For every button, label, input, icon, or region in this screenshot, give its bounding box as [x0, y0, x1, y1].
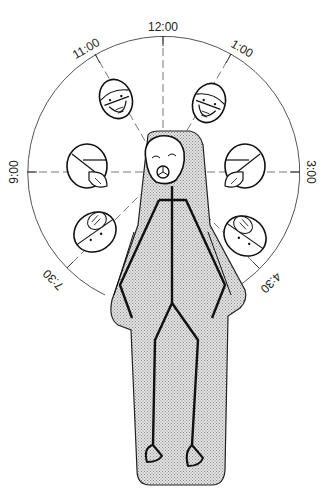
surgeon-head-7-30 [66, 204, 124, 260]
label-9-00: 9:00 [7, 160, 21, 184]
label-7-30: 7:30 [40, 266, 67, 293]
surgical-positions-diagram: 12:00 1:00 3:00 4:30 7:30 9:00 11:00 [0, 0, 334, 497]
surgeon-head-11-00 [94, 75, 138, 124]
label-3-00: 3:00 [304, 160, 318, 184]
surgeon-head-9-00 [67, 144, 107, 188]
surgeon-head-1-00 [187, 79, 231, 128]
surgeon-head-3-00 [225, 144, 265, 188]
label-12-00: 12:00 [148, 20, 178, 34]
label-4-30: 4:30 [257, 270, 284, 297]
label-1-00: 1:00 [228, 37, 256, 61]
patient-head [145, 136, 184, 184]
